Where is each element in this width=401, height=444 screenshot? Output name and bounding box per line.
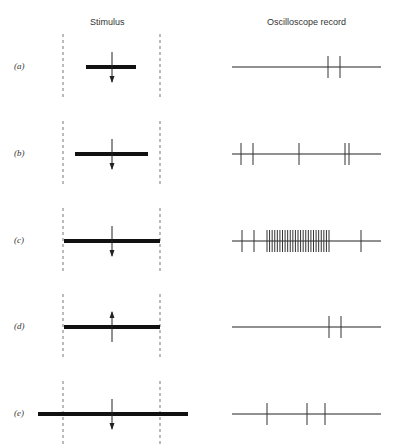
arrow-down-icon bbox=[110, 423, 115, 430]
arrow-down-icon bbox=[110, 250, 115, 257]
arrow-down-icon bbox=[110, 163, 115, 170]
arrow-down-icon bbox=[110, 76, 115, 83]
arrow-up-icon bbox=[110, 311, 115, 318]
stimulus-record-diagram bbox=[0, 0, 401, 444]
